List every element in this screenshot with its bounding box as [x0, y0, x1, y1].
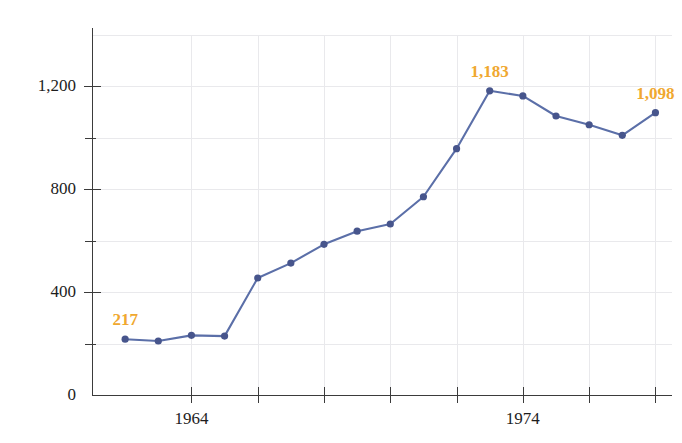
- y-axis-label: 800: [51, 179, 77, 198]
- data-label: 1,183: [471, 62, 509, 81]
- data-point: [155, 337, 162, 344]
- line-chart: 04008001,200 19641974 2171,1831,098: [0, 0, 682, 443]
- x-axis-label: 1974: [506, 409, 541, 428]
- data-point: [354, 228, 361, 235]
- y-axis-label: 1,200: [38, 76, 76, 95]
- chart-svg: 04008001,200 19641974 2171,1831,098: [0, 0, 682, 443]
- data-point: [519, 92, 526, 99]
- data-point: [486, 87, 493, 94]
- x-axis-label: 1964: [174, 409, 209, 428]
- data-point: [420, 193, 427, 200]
- data-label: 1,098: [636, 84, 674, 103]
- data-point: [122, 336, 129, 343]
- data-label: 217: [112, 310, 138, 329]
- data-point: [586, 121, 593, 128]
- data-point: [619, 132, 626, 139]
- y-axis-label: 400: [51, 282, 77, 301]
- data-point: [320, 241, 327, 248]
- data-point: [221, 333, 228, 340]
- data-point: [188, 332, 195, 339]
- data-point: [387, 220, 394, 227]
- data-point: [552, 112, 559, 119]
- data-point: [254, 274, 261, 281]
- data-point: [453, 145, 460, 152]
- y-axis-label: 0: [68, 385, 77, 404]
- data-point: [652, 109, 659, 116]
- chart-background: [0, 0, 682, 443]
- data-point: [287, 259, 294, 266]
